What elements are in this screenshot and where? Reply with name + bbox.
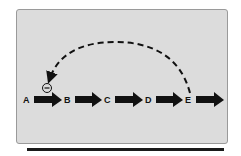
arrow-b-to-c	[75, 92, 102, 107]
node-label-a: A	[23, 95, 30, 105]
node-label-b: B	[64, 95, 71, 105]
feedback-arc	[50, 42, 190, 93]
node-label-c: C	[104, 95, 111, 105]
arrow-e-out	[196, 92, 224, 107]
pathway-diagram: A B C D E	[0, 0, 241, 156]
minus-circle-icon	[43, 84, 52, 93]
arrow-d-to-e	[156, 92, 183, 107]
node-label-e: E	[185, 95, 191, 105]
bottom-rule	[27, 148, 224, 151]
arrow-a-to-b	[34, 92, 62, 107]
arrow-c-to-d	[115, 92, 143, 107]
node-label-d: D	[145, 95, 152, 105]
